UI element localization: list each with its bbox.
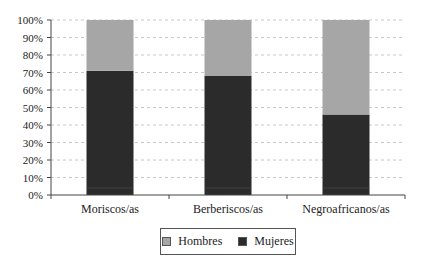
y-tick-label: 30%: [23, 137, 43, 149]
bar-segment-mujeres: [323, 115, 370, 196]
y-tick-label: 90%: [23, 32, 43, 44]
y-tick-label: 50%: [23, 102, 43, 114]
legend-swatch-mujeres: [238, 237, 247, 246]
y-axis-ticks: 0%10%20%30%40%50%60%70%80%90%100%: [17, 14, 51, 201]
y-tick-label: 70%: [23, 67, 43, 79]
y-tick-label: 0%: [28, 189, 43, 201]
legend-swatch-hombres: [162, 237, 171, 246]
legend-item-hombres: Hombres: [162, 234, 222, 249]
y-tick-label: 10%: [23, 172, 43, 184]
bar-segment-hombres: [323, 20, 370, 115]
legend-label: Hombres: [178, 234, 222, 249]
bar-segment-mujeres: [205, 76, 252, 195]
x-category-label: Berberiscos/as: [193, 202, 263, 216]
y-tick-label: 80%: [23, 49, 43, 61]
x-axis-labels: Moriscos/asBerberiscos/asNegroafricanos/…: [81, 202, 390, 216]
bar-segment-hombres: [205, 20, 252, 76]
legend-item-mujeres: Mujeres: [238, 234, 293, 249]
bar-segment-mujeres: [87, 71, 134, 195]
stacked-bar-chart: 0%10%20%30%40%50%60%70%80%90%100% Morisc…: [0, 0, 422, 267]
legend-label: Mujeres: [254, 234, 293, 249]
bars: [87, 20, 370, 195]
x-category-label: Moriscos/as: [81, 202, 139, 216]
x-category-label: Negroafricanos/as: [302, 202, 390, 216]
y-tick-label: 100%: [17, 14, 43, 26]
bar-segment-hombres: [87, 20, 134, 71]
legend: Hombres Mujeres: [160, 228, 296, 255]
y-tick-label: 20%: [23, 154, 43, 166]
y-tick-label: 60%: [23, 84, 43, 96]
y-tick-label: 40%: [23, 119, 43, 131]
